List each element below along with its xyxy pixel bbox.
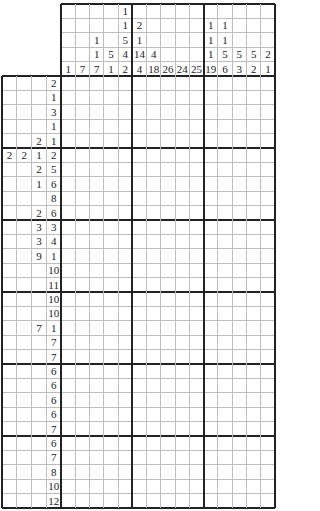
grid-cell[interactable] bbox=[175, 148, 189, 162]
grid-cell[interactable] bbox=[104, 206, 118, 220]
grid-cell[interactable] bbox=[175, 450, 189, 464]
grid-cell[interactable] bbox=[189, 479, 203, 493]
grid-cell[interactable] bbox=[175, 249, 189, 263]
grid-cell[interactable] bbox=[189, 206, 203, 220]
grid-cell[interactable] bbox=[218, 220, 232, 234]
grid-cell[interactable] bbox=[132, 378, 146, 392]
grid-cell[interactable] bbox=[132, 148, 146, 162]
grid-cell[interactable] bbox=[247, 119, 261, 133]
grid-cell[interactable] bbox=[90, 479, 104, 493]
grid-cell[interactable] bbox=[90, 407, 104, 421]
grid-cell[interactable] bbox=[75, 494, 89, 508]
grid-cell[interactable] bbox=[118, 335, 132, 349]
grid-cell[interactable] bbox=[232, 393, 246, 407]
grid-cell[interactable] bbox=[161, 436, 175, 450]
grid-cell[interactable] bbox=[218, 465, 232, 479]
grid-cell[interactable] bbox=[232, 278, 246, 292]
grid-cell[interactable] bbox=[118, 134, 132, 148]
grid-cell[interactable] bbox=[218, 407, 232, 421]
grid-cell[interactable] bbox=[218, 450, 232, 464]
grid-cell[interactable] bbox=[147, 249, 161, 263]
grid-cell[interactable] bbox=[175, 119, 189, 133]
grid-cell[interactable] bbox=[90, 335, 104, 349]
grid-cell[interactable] bbox=[61, 393, 75, 407]
grid-cell[interactable] bbox=[61, 206, 75, 220]
grid-cell[interactable] bbox=[189, 450, 203, 464]
grid-cell[interactable] bbox=[147, 134, 161, 148]
grid-cell[interactable] bbox=[189, 422, 203, 436]
grid-cell[interactable] bbox=[132, 220, 146, 234]
grid-cell[interactable] bbox=[104, 292, 118, 306]
grid-cell[interactable] bbox=[232, 465, 246, 479]
grid-cell[interactable] bbox=[90, 105, 104, 119]
grid-cell[interactable] bbox=[232, 321, 246, 335]
grid-cell[interactable] bbox=[147, 479, 161, 493]
grid-cell[interactable] bbox=[232, 378, 246, 392]
grid-cell[interactable] bbox=[75, 220, 89, 234]
grid-cell[interactable] bbox=[147, 206, 161, 220]
grid-cell[interactable] bbox=[175, 191, 189, 205]
grid-cell[interactable] bbox=[104, 220, 118, 234]
grid-cell[interactable] bbox=[247, 177, 261, 191]
grid-cell[interactable] bbox=[161, 191, 175, 205]
grid-cell[interactable] bbox=[218, 321, 232, 335]
grid-cell[interactable] bbox=[189, 465, 203, 479]
grid-cell[interactable] bbox=[118, 162, 132, 176]
grid-cell[interactable] bbox=[147, 220, 161, 234]
grid-cell[interactable] bbox=[104, 119, 118, 133]
grid-cell[interactable] bbox=[161, 162, 175, 176]
grid-cell[interactable] bbox=[118, 306, 132, 320]
grid-cell[interactable] bbox=[161, 278, 175, 292]
grid-cell[interactable] bbox=[132, 422, 146, 436]
grid-cell[interactable] bbox=[75, 105, 89, 119]
grid-cell[interactable] bbox=[175, 105, 189, 119]
grid-cell[interactable] bbox=[204, 378, 218, 392]
grid-cell[interactable] bbox=[218, 249, 232, 263]
grid-cell[interactable] bbox=[104, 249, 118, 263]
grid-cell[interactable] bbox=[175, 321, 189, 335]
grid-cell[interactable] bbox=[247, 105, 261, 119]
grid-cell[interactable] bbox=[118, 177, 132, 191]
grid-cell[interactable] bbox=[61, 292, 75, 306]
grid-cell[interactable] bbox=[218, 234, 232, 248]
grid-cell[interactable] bbox=[104, 306, 118, 320]
grid-cell[interactable] bbox=[247, 148, 261, 162]
grid-cell[interactable] bbox=[175, 422, 189, 436]
grid-cell[interactable] bbox=[175, 494, 189, 508]
grid-cell[interactable] bbox=[247, 263, 261, 277]
grid-cell[interactable] bbox=[204, 422, 218, 436]
grid-cell[interactable] bbox=[75, 90, 89, 104]
grid-cell[interactable] bbox=[147, 263, 161, 277]
grid-cell[interactable] bbox=[104, 105, 118, 119]
grid-cell[interactable] bbox=[75, 234, 89, 248]
grid-cell[interactable] bbox=[189, 436, 203, 450]
grid-cell[interactable] bbox=[118, 465, 132, 479]
grid-cell[interactable] bbox=[175, 335, 189, 349]
grid-cell[interactable] bbox=[161, 494, 175, 508]
grid-cell[interactable] bbox=[161, 321, 175, 335]
grid-cell[interactable] bbox=[132, 393, 146, 407]
grid-cell[interactable] bbox=[75, 350, 89, 364]
grid-cell[interactable] bbox=[104, 263, 118, 277]
grid-cell[interactable] bbox=[147, 494, 161, 508]
grid-cell[interactable] bbox=[247, 191, 261, 205]
grid-cell[interactable] bbox=[118, 90, 132, 104]
grid-cell[interactable] bbox=[104, 422, 118, 436]
grid-cell[interactable] bbox=[261, 450, 275, 464]
grid-cell[interactable] bbox=[232, 90, 246, 104]
grid-cell[interactable] bbox=[261, 321, 275, 335]
grid-cell[interactable] bbox=[161, 105, 175, 119]
grid-cell[interactable] bbox=[232, 191, 246, 205]
grid-cell[interactable] bbox=[61, 177, 75, 191]
grid-cell[interactable] bbox=[189, 134, 203, 148]
grid-cell[interactable] bbox=[104, 450, 118, 464]
grid-cell[interactable] bbox=[132, 306, 146, 320]
grid-cell[interactable] bbox=[204, 465, 218, 479]
grid-cell[interactable] bbox=[204, 90, 218, 104]
grid-cell[interactable] bbox=[90, 378, 104, 392]
grid-cell[interactable] bbox=[118, 321, 132, 335]
grid-cell[interactable] bbox=[175, 306, 189, 320]
grid-cell[interactable] bbox=[90, 162, 104, 176]
grid-cell[interactable] bbox=[261, 278, 275, 292]
grid-cell[interactable] bbox=[75, 422, 89, 436]
